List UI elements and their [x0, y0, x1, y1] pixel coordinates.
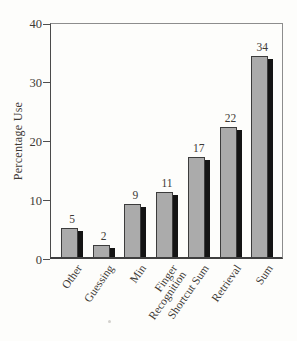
- bar-value-label: 22: [211, 112, 251, 124]
- bar-value-label: 11: [147, 177, 187, 189]
- bar-group: 22: [220, 127, 242, 257]
- bar-value-label: 2: [84, 230, 124, 242]
- y-axis-tick-label: 10: [12, 193, 42, 209]
- y-axis-tick: [43, 259, 50, 260]
- bar-shadow: [141, 207, 146, 257]
- bar-shadow: [173, 195, 178, 257]
- bar-group: 34: [251, 56, 273, 257]
- bar-shadow: [268, 59, 273, 257]
- bar-chart-figure: Percentage Use 01020304052911172234 Othe…: [0, 0, 297, 341]
- bar: [124, 204, 141, 257]
- bar-shadow: [110, 248, 115, 257]
- bar: [220, 127, 237, 257]
- y-axis-tick: [43, 200, 50, 201]
- x-axis-label: Min: [128, 263, 148, 285]
- bar-group: 5: [61, 228, 83, 258]
- bar-value-label: 34: [242, 41, 282, 53]
- bar-value-label: 9: [115, 189, 155, 201]
- x-axis-label: Guessing: [83, 263, 117, 304]
- plot-area: 01020304052911172234: [50, 23, 283, 259]
- x-axis-label: Other: [60, 263, 84, 291]
- y-axis-tick-label: 30: [12, 75, 42, 91]
- bar: [156, 192, 173, 257]
- x-axis-label: Retrieval: [210, 263, 243, 304]
- bar-value-label: 5: [52, 213, 92, 225]
- bar: [93, 245, 110, 257]
- bar-shadow: [78, 231, 83, 258]
- bar: [188, 157, 205, 257]
- bar-group: 17: [188, 157, 210, 257]
- bar-shadow: [237, 130, 242, 257]
- y-axis-tick-label: 0: [12, 252, 42, 268]
- y-axis-tick: [43, 82, 50, 83]
- bar: [61, 228, 78, 258]
- bar-group: 11: [156, 192, 178, 257]
- bar-group: 2: [93, 245, 115, 257]
- bar-shadow: [205, 160, 210, 257]
- bar-group: 9: [124, 204, 146, 257]
- scan-artifact-dot: [108, 320, 111, 323]
- y-axis-tick-label: 40: [12, 16, 42, 32]
- bar-value-label: 17: [179, 142, 219, 154]
- x-axis-label: Sum: [254, 263, 275, 287]
- bar: [251, 56, 268, 257]
- y-axis-tick-label: 20: [12, 134, 42, 150]
- y-axis-tick: [43, 141, 50, 142]
- y-axis-tick: [43, 24, 50, 25]
